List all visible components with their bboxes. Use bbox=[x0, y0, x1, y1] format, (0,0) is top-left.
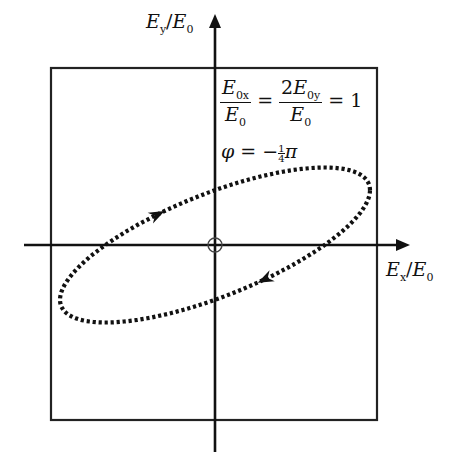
amplitude-equation: E0x E0 = 2E0y E0 = 1 bbox=[220, 76, 362, 129]
direction-arrow-icon bbox=[148, 211, 165, 224]
phase-equation: φ = −14π bbox=[221, 140, 297, 163]
fraction-e0x: E0x E0 bbox=[220, 76, 251, 129]
y-axis-label: Ey/E0 bbox=[146, 10, 193, 36]
y-axis-arrow-icon bbox=[209, 14, 221, 28]
fraction-e0y: 2E0y E0 bbox=[279, 76, 322, 129]
polarization-diagram bbox=[0, 0, 460, 466]
x-axis-label: Ex/E0 bbox=[386, 258, 433, 284]
x-axis-arrow-icon bbox=[396, 239, 410, 251]
